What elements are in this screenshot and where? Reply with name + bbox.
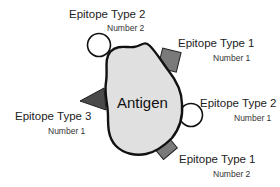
epitope-label-type: Epitope Type 1 (179, 153, 256, 165)
epitope-label-number: Number 2 (213, 169, 250, 179)
epitope-label-type: Epitope Type 1 (178, 37, 255, 49)
epitope-label-type: Epitope Type 2 (200, 97, 277, 109)
epitope-label-number: Number 1 (213, 53, 250, 63)
epitope-label-number: Number 2 (107, 23, 144, 33)
epitope-circle-top (88, 34, 111, 57)
epitope-triangle (80, 88, 106, 110)
epitope-label-type: Epitope Type 2 (69, 8, 146, 20)
epitope-label-number: Number 1 (234, 113, 271, 123)
epitope-label-number: Number 1 (48, 126, 85, 136)
epitope-label-type: Epitope Type 3 (15, 110, 92, 122)
antigen-label: Antigen (117, 94, 168, 111)
